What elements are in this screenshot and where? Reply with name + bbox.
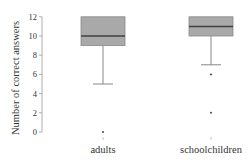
box-schoolchildren [189,17,233,114]
y-tick-label: 10 [29,31,38,41]
y-axis-label: Number of correct answers [10,21,21,135]
boxes [81,17,233,133]
y-tick-label: 2 [33,108,37,118]
outlier-point [210,112,212,114]
x-tick-label-adults: adults [90,144,115,155]
y-tick-label: 12 [29,12,38,22]
y-tick-label: 4 [33,89,38,99]
y-tick-label: 0 [33,127,37,137]
y-tick-label: 6 [33,69,37,79]
x-axis-labels: adultsschoolchildren [90,137,242,155]
outlier-point [102,131,104,133]
box-adults [81,17,125,133]
x-tick-label-schoolchildren: schoolchildren [180,144,243,155]
y-axis: 024681012 [29,12,43,137]
outlier-point [210,73,212,75]
y-tick-label: 8 [33,50,37,60]
boxplot-chart: 024681012 Number of correct answers adul… [0,0,251,161]
